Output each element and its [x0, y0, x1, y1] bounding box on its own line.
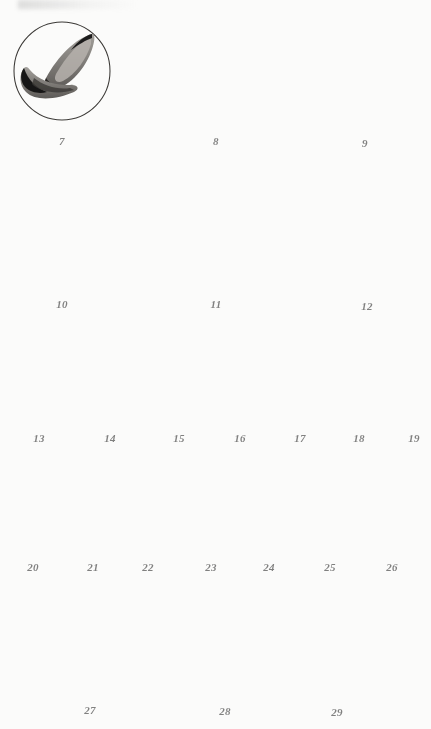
figure-7	[14, 22, 110, 120]
plate-image	[0, 0, 431, 729]
